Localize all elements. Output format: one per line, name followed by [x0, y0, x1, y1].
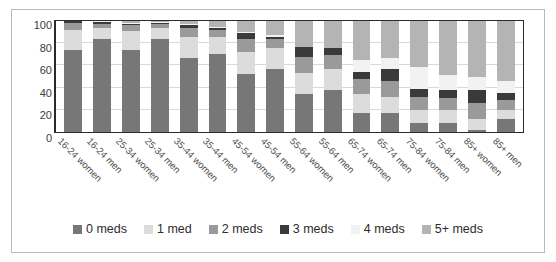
- stacked-bar: [151, 21, 169, 132]
- bar-segment: [151, 39, 169, 132]
- bar-segment: [353, 113, 371, 132]
- x-label-slot: 35-44 men: [203, 134, 232, 206]
- x-label-slot: 55-64 men: [318, 134, 347, 206]
- bar-column[interactable]: [59, 21, 88, 132]
- bar-segment: [439, 75, 457, 89]
- x-label-slot: 35-44 women: [174, 134, 203, 206]
- bar-segment: [439, 90, 457, 98]
- y-tick-label: 40: [18, 88, 52, 99]
- bar-column[interactable]: [117, 21, 146, 132]
- bar-segment: [209, 54, 227, 132]
- bar-column[interactable]: [290, 21, 319, 132]
- bar-segment: [295, 47, 313, 57]
- chart-figure: 100806040200 16-24 women16-24 men25-34 w…: [0, 0, 556, 262]
- x-label-slot: 65-74 women: [347, 134, 376, 206]
- x-label-slot: 16-24 men: [87, 134, 116, 206]
- bar-segment: [381, 21, 399, 58]
- bar-segment: [497, 100, 515, 110]
- x-label-slot: 75-84 men: [434, 134, 463, 206]
- bar-segment: [209, 37, 227, 55]
- stacked-bar: [266, 21, 284, 132]
- bar-segment: [353, 72, 371, 79]
- bar-segment: [410, 123, 428, 132]
- stacked-bar: [209, 21, 227, 132]
- bar-segment: [468, 130, 486, 132]
- legend-item[interactable]: 1 med: [144, 223, 192, 236]
- bar-segment: [410, 67, 428, 89]
- legend-swatch-icon: [144, 225, 153, 234]
- bar-segment: [266, 69, 284, 132]
- stacked-bar: [381, 21, 399, 132]
- bar-column[interactable]: [376, 21, 405, 132]
- plot-area: [55, 20, 524, 133]
- bar-segment: [439, 110, 457, 123]
- bar-segment: [353, 60, 371, 72]
- bar-column[interactable]: [405, 21, 434, 132]
- legend-item[interactable]: 3 meds: [280, 223, 334, 236]
- legend-swatch-icon: [73, 225, 82, 234]
- legend-swatch-icon: [422, 225, 431, 234]
- bar-column[interactable]: [145, 21, 174, 132]
- bar-column[interactable]: [261, 21, 290, 132]
- stacked-bar: [353, 21, 371, 132]
- bar-segment: [410, 97, 428, 110]
- bar-segment: [237, 74, 255, 132]
- bar-segment: [180, 58, 198, 132]
- stacked-bar: [64, 21, 82, 132]
- bar-segment: [497, 21, 515, 81]
- bar-segment: [439, 21, 457, 75]
- legend-label: 4 meds: [364, 223, 405, 236]
- stacked-bar: [93, 21, 111, 132]
- stacked-bar: [122, 21, 140, 132]
- y-tick-label: 80: [18, 43, 52, 54]
- x-label-slot: 55-64 women: [290, 134, 319, 206]
- bar-segment: [237, 39, 255, 52]
- x-label-slot: 85+ women: [463, 134, 492, 206]
- bar-segment: [64, 23, 82, 30]
- legend-label: 3 meds: [293, 223, 334, 236]
- bar-column[interactable]: [434, 21, 463, 132]
- bar-column[interactable]: [88, 21, 117, 132]
- bar-column[interactable]: [232, 21, 261, 132]
- bar-segment: [266, 39, 284, 48]
- legend-item[interactable]: 4 meds: [351, 223, 405, 236]
- y-axis: 100806040200: [18, 14, 52, 139]
- x-axis-tick-label: 85+ men: [490, 136, 523, 169]
- legend-item[interactable]: 5+ meds: [422, 223, 483, 236]
- stacked-bar: [468, 21, 486, 132]
- bar-segment: [122, 31, 140, 50]
- bar-segment: [381, 113, 399, 132]
- stacked-bar: [410, 21, 428, 132]
- bar-column[interactable]: [491, 21, 520, 132]
- bar-segment: [93, 28, 111, 39]
- bar-segment: [497, 119, 515, 132]
- x-label-slot: 25-34 men: [145, 134, 174, 206]
- bar-segment: [64, 30, 82, 50]
- x-label-slot: 45-54 women: [232, 134, 261, 206]
- bar-column[interactable]: [203, 21, 232, 132]
- y-tick-label: 20: [18, 110, 52, 121]
- bar-segment: [324, 69, 342, 90]
- bar-segment: [64, 50, 82, 132]
- legend-item[interactable]: 2 meds: [209, 223, 263, 236]
- bar-segment: [324, 90, 342, 132]
- bar-column[interactable]: [347, 21, 376, 132]
- bar-segment: [353, 21, 371, 60]
- y-tick-label: 60: [18, 65, 52, 76]
- legend-item[interactable]: 0 meds: [73, 223, 127, 236]
- bar-segment: [180, 28, 198, 37]
- bar-segment: [468, 119, 486, 130]
- bar-segment: [497, 110, 515, 119]
- bar-column[interactable]: [174, 21, 203, 132]
- legend-label: 5+ meds: [435, 223, 483, 236]
- bar-segment: [381, 81, 399, 97]
- bar-column[interactable]: [318, 21, 347, 132]
- bar-column[interactable]: [462, 21, 491, 132]
- bar-segment: [468, 77, 486, 90]
- legend-swatch-icon: [209, 225, 218, 234]
- legend-label: 1 med: [157, 223, 192, 236]
- bar-segment: [439, 98, 457, 110]
- stacked-bar: [295, 21, 313, 132]
- legend-label: 0 meds: [86, 223, 127, 236]
- legend-swatch-icon: [280, 225, 289, 234]
